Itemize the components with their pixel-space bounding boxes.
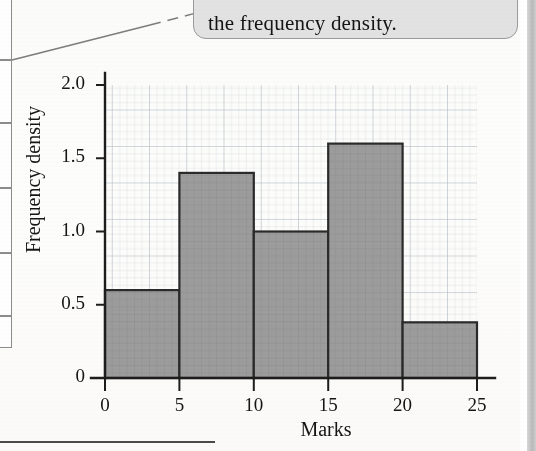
histogram-bar (254, 232, 328, 379)
histogram-bar (328, 144, 402, 378)
bottom-rule (0, 441, 215, 443)
x-axis-label: Marks (0, 418, 536, 441)
histogram-bar (403, 322, 477, 378)
y-tick-label: 1.0 (35, 219, 85, 241)
histogram-chart: Frequency density Marks 00.51.01.52.0 05… (0, 0, 536, 451)
y-axis-label: Frequency density (22, 85, 45, 275)
page-gutter-white (520, 0, 527, 451)
x-tick-label: 20 (383, 394, 423, 416)
x-tick-label: 10 (234, 394, 274, 416)
page-edge-strip (527, 0, 536, 451)
x-tick-label: 15 (308, 394, 348, 416)
x-axis-label-text: Marks (300, 418, 351, 440)
y-tick-label: 0 (35, 365, 85, 387)
y-tick-label: 2.0 (35, 72, 85, 94)
histogram-bar (105, 290, 179, 378)
x-tick-label: 0 (85, 394, 125, 416)
x-tick-label: 5 (159, 394, 199, 416)
histogram-bar (179, 173, 253, 378)
x-tick-label: 25 (457, 394, 497, 416)
y-tick-label: 1.5 (35, 145, 85, 167)
y-tick-label: 0.5 (35, 292, 85, 314)
